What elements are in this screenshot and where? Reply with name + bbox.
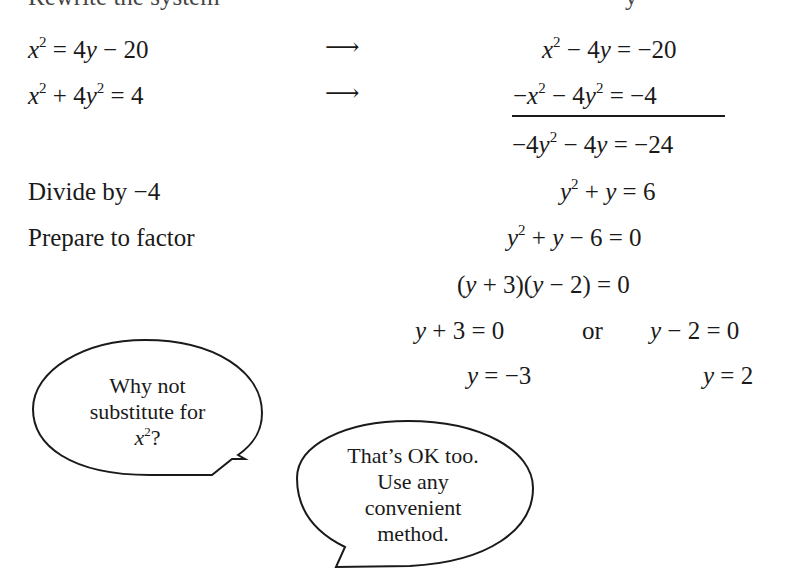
speech-bubble-answer-text: That’s OK too. Use any convenient method… <box>318 443 508 547</box>
